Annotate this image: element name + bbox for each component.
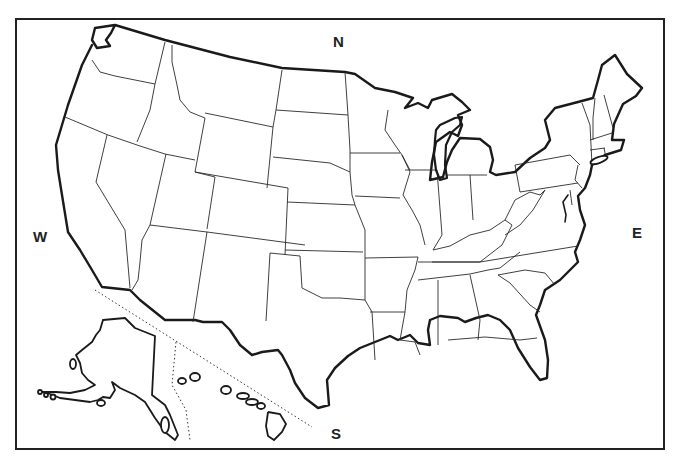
compass-south-label: S <box>331 426 341 441</box>
hawaii-islands <box>178 373 286 440</box>
alaska-panhandle-islands <box>161 417 169 433</box>
compass-east-label: E <box>632 225 642 240</box>
contiguous-us-outline <box>56 25 642 408</box>
alaska-island <box>97 400 105 406</box>
compass-west-label: W <box>33 229 47 244</box>
state-boundaries <box>65 42 613 360</box>
compass-north-label: N <box>333 34 344 49</box>
aleutian-island <box>38 390 42 394</box>
inset-divider-diagonal <box>95 290 312 427</box>
aleutian-island <box>44 393 48 397</box>
aleutian-island <box>51 395 56 400</box>
lake-michigan <box>434 117 462 180</box>
us-outline-map <box>0 0 678 464</box>
long-island <box>590 154 609 166</box>
alaska-outline <box>42 318 178 440</box>
alaska-island <box>70 359 76 369</box>
